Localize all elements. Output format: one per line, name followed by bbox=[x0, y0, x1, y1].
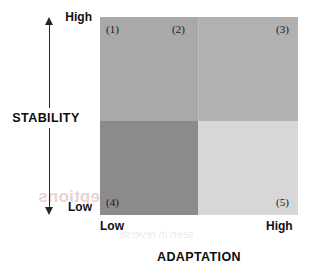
stability-adaptation-matrix-figure: Changing as 0.9 perceptions seen in reve… bbox=[0, 0, 313, 278]
x-axis-high-label: High bbox=[266, 219, 293, 233]
arrow-up-icon bbox=[45, 17, 53, 25]
y-axis-title: STABILITY bbox=[0, 108, 92, 128]
x-axis-low-label: Low bbox=[100, 219, 124, 233]
quadrant-label-4: (4) bbox=[106, 197, 119, 208]
matrix-plot-area: (1) (2) (3) (4) (5) bbox=[100, 17, 298, 215]
y-axis-low-label: Low bbox=[0, 200, 92, 214]
quadrant-divider-vertical bbox=[198, 17, 199, 121]
quadrant-label-3: (3) bbox=[276, 24, 289, 35]
quadrant-label-1: (1) bbox=[106, 24, 119, 35]
x-axis-title: ADAPTATION bbox=[100, 250, 298, 264]
x-axis-arrow: ADAPTATION bbox=[100, 250, 298, 264]
quadrant-label-5: (5) bbox=[276, 197, 289, 208]
quadrant-label-2: (2) bbox=[172, 24, 185, 35]
